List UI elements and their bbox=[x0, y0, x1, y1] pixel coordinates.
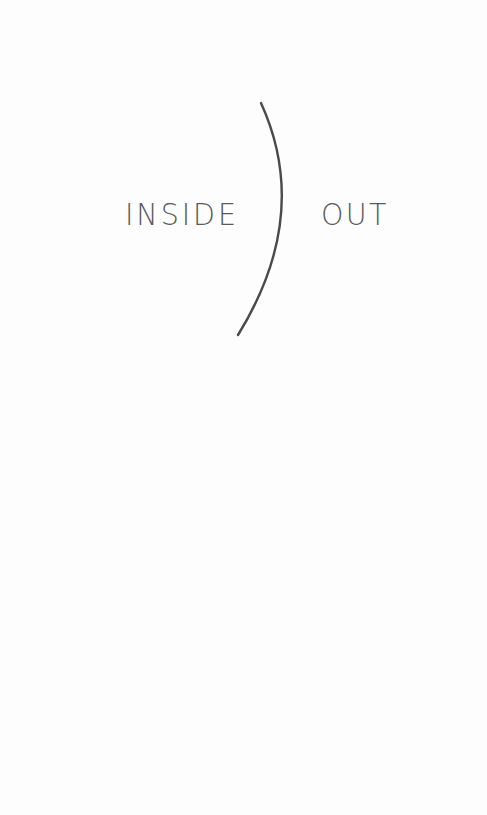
parenthesis-arc-icon bbox=[0, 0, 487, 815]
book-cover: INSIDE OUT bbox=[0, 0, 487, 815]
title-word-out: OUT bbox=[321, 199, 389, 230]
